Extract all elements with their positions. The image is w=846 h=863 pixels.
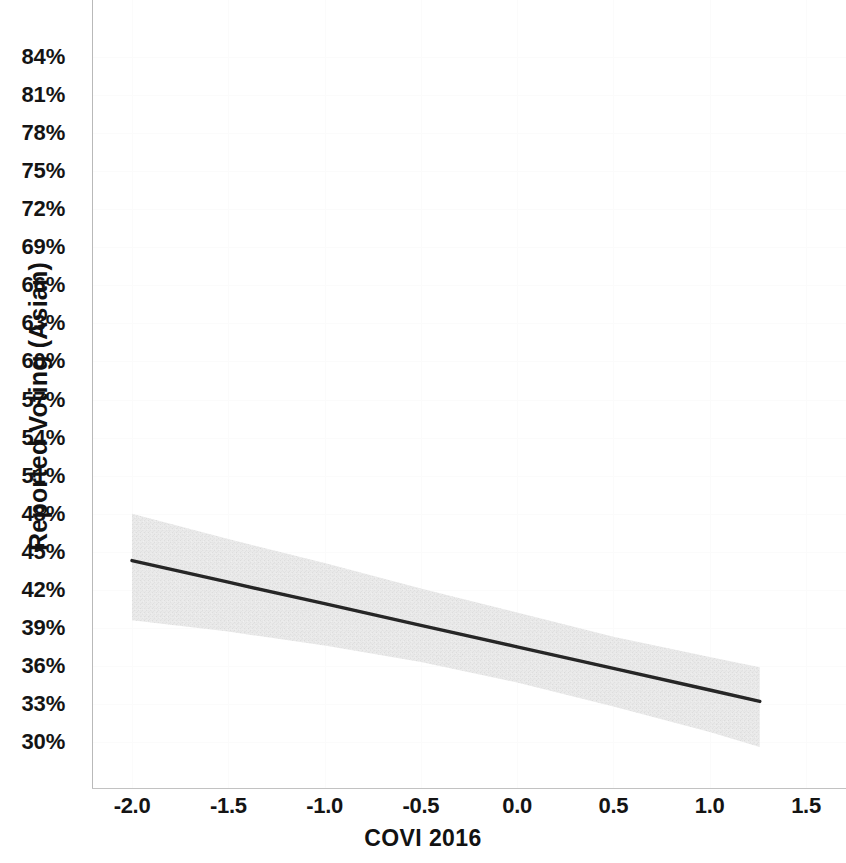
y-tick-label: 72% [0, 198, 65, 220]
x-tick-label: 0.0 [472, 795, 562, 817]
y-tick-label: 69% [0, 236, 65, 258]
gridline-horizontal [93, 552, 846, 553]
y-tick-label: 84% [0, 46, 65, 68]
gridline-horizontal [93, 361, 846, 362]
y-tick-label: 39% [0, 617, 65, 639]
gridline-horizontal [93, 628, 846, 629]
x-tick-label: -2.0 [87, 795, 177, 817]
gridline-horizontal [93, 742, 846, 743]
y-tick-label: 33% [0, 693, 65, 715]
gridline-vertical [517, 0, 518, 788]
gridline-horizontal [93, 133, 846, 134]
gridline-horizontal [93, 400, 846, 401]
gridline-horizontal [93, 666, 846, 667]
y-tick-label: 75% [0, 160, 65, 182]
gridline-horizontal [93, 285, 846, 286]
chart-figure: 84%81%78%75%72%69%66%63%60%57%54%51%48%4… [0, 0, 846, 863]
x-tick-label: 0.5 [568, 795, 658, 817]
gridline-horizontal [93, 247, 846, 248]
x-tick-label: 1.5 [761, 795, 846, 817]
gridline-horizontal [93, 476, 846, 477]
y-tick-label: 30% [0, 731, 65, 753]
x-tick-label: -1.5 [183, 795, 273, 817]
gridline-vertical [325, 0, 326, 788]
gridline-vertical [421, 0, 422, 788]
gridline-horizontal [93, 57, 846, 58]
gridline-horizontal [93, 323, 846, 324]
x-tick-label: 1.0 [665, 795, 755, 817]
y-tick-label: 81% [0, 84, 65, 106]
y-tick-label: 42% [0, 579, 65, 601]
y-axis-title: Reported Voting (Asian) [24, 257, 53, 557]
gridline-horizontal [93, 514, 846, 515]
gridline-horizontal [93, 438, 846, 439]
confidence-band [132, 514, 760, 747]
gridline-vertical [613, 0, 614, 788]
gridline-vertical [132, 0, 133, 788]
plot-area [0, 0, 846, 863]
regression-line [132, 561, 760, 702]
y-axis-line [92, 0, 93, 789]
x-axis-title: COVI 2016 [0, 825, 846, 852]
gridline-horizontal [93, 171, 846, 172]
gridline-horizontal [93, 95, 846, 96]
gridline-vertical [710, 0, 711, 788]
y-tick-label: 36% [0, 655, 65, 677]
gridline-vertical [228, 0, 229, 788]
x-axis-line [92, 788, 846, 789]
x-tick-label: -0.5 [376, 795, 466, 817]
gridline-horizontal [93, 704, 846, 705]
gridline-vertical [806, 0, 807, 788]
gridline-horizontal [93, 209, 846, 210]
x-tick-label: -1.0 [280, 795, 370, 817]
y-tick-label: 78% [0, 122, 65, 144]
gridline-horizontal [93, 590, 846, 591]
